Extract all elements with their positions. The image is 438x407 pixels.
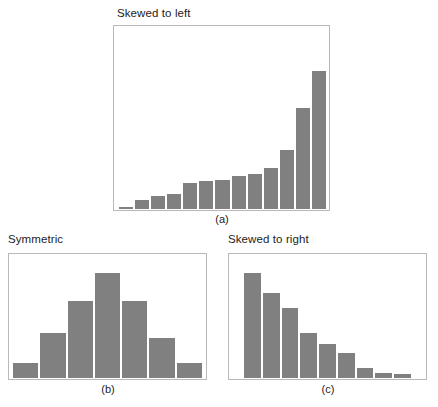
bar	[182, 183, 198, 209]
bar	[94, 273, 121, 378]
bar	[263, 168, 279, 209]
bar	[281, 308, 300, 378]
bar	[356, 368, 375, 378]
bar	[262, 293, 281, 378]
panel-c-title: Skewed to right	[228, 232, 309, 246]
panel-a-bars	[114, 26, 329, 210]
panel-a-plot-frame	[113, 25, 330, 211]
panel-c-bars	[229, 254, 426, 379]
panel-symmetric: Symmetric (b)	[0, 230, 220, 407]
panel-a-title: Skewed to left	[117, 6, 191, 20]
bar	[166, 194, 182, 209]
bar	[243, 273, 262, 378]
histogram-shapes-figure: Skewed to left (a) Symmetric (b) Skewed …	[0, 0, 438, 407]
bar	[150, 196, 166, 209]
bar	[118, 207, 134, 209]
bar	[393, 374, 412, 378]
bar	[311, 71, 327, 209]
bar	[121, 301, 148, 378]
panel-b-caption: (b)	[68, 383, 148, 396]
bar	[39, 333, 66, 378]
bar	[148, 338, 175, 378]
bar	[299, 333, 318, 378]
bar	[134, 200, 150, 209]
panel-c-caption: (c)	[288, 383, 368, 396]
bar	[247, 174, 263, 209]
bar	[337, 353, 356, 378]
bar	[318, 344, 337, 378]
bar	[231, 176, 247, 209]
bar	[214, 180, 230, 209]
panel-skewed-to-right: Skewed to right (c)	[220, 230, 438, 407]
panel-c-plot-frame	[228, 253, 427, 380]
bar	[67, 301, 94, 378]
panel-b-bars	[9, 254, 206, 379]
bar	[198, 181, 214, 209]
panel-skewed-to-left: Skewed to left (a)	[0, 0, 438, 230]
bar	[176, 363, 203, 378]
bar	[279, 150, 295, 209]
bar	[374, 373, 393, 378]
panel-b-plot-frame	[8, 253, 207, 380]
panel-b-title: Symmetric	[8, 232, 63, 246]
panel-a-caption: (a)	[183, 213, 261, 226]
bar	[12, 363, 39, 378]
bar	[295, 108, 311, 209]
